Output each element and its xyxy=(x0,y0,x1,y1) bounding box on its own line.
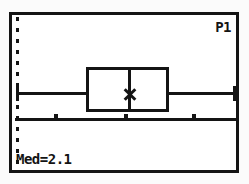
screenshot-canvas: P1 Med=2.1 xyxy=(0,0,249,184)
whisker-max-line xyxy=(166,92,235,95)
x-axis-tick xyxy=(54,114,58,119)
x-axis-tick xyxy=(124,114,128,119)
whisker-min-line xyxy=(16,92,90,95)
plot-name-label: P1 xyxy=(215,20,231,34)
whisker-max-cap xyxy=(233,86,236,101)
trace-cursor-icon xyxy=(122,87,137,102)
x-axis-tick xyxy=(192,114,196,119)
median-readout-label: Med=2.1 xyxy=(16,152,72,166)
boxplot-chart: P1 Med=2.1 xyxy=(12,15,236,170)
calculator-screen: P1 Med=2.1 xyxy=(9,12,239,173)
